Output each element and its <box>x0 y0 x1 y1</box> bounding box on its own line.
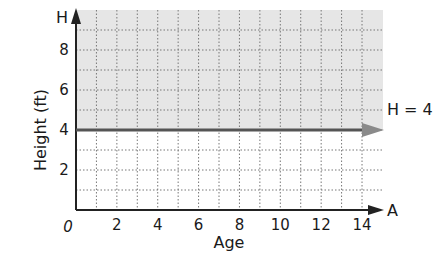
x-axis-letter: A <box>387 201 398 220</box>
x-tick-label: 14 <box>352 216 371 234</box>
x-tick-label: 10 <box>271 216 290 234</box>
inequality-graph: 2468101214 2468 Age Height (ft) A H H = … <box>0 0 448 265</box>
y-tick-label: 4 <box>59 121 69 139</box>
x-axis-label: Age <box>214 233 245 252</box>
x-tick-label: 2 <box>112 216 122 234</box>
x-tick-label: 8 <box>235 216 245 234</box>
line-label: H = 4 <box>387 100 433 119</box>
origin-label: 0 <box>63 218 73 236</box>
y-tick-labels: 2468 <box>59 41 69 179</box>
y-axis-label: Height (ft) <box>31 89 50 171</box>
x-tick-label: 6 <box>194 216 204 234</box>
x-tick-label: 4 <box>153 216 163 234</box>
x-tick-label: 12 <box>312 216 331 234</box>
y-axis-letter: H <box>56 8 68 27</box>
x-tick-labels: 2468101214 <box>112 216 371 234</box>
y-tick-label: 6 <box>59 81 69 99</box>
y-tick-label: 2 <box>59 161 69 179</box>
y-tick-label: 8 <box>59 41 69 59</box>
